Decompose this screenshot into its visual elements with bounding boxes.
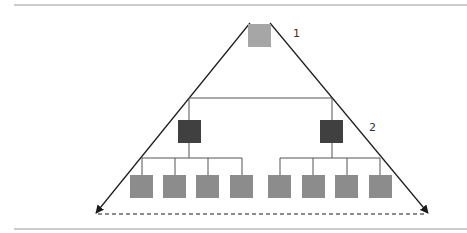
node-leaf-4 — [230, 175, 253, 198]
node-mid-left — [178, 120, 201, 143]
node-leaf-2 — [163, 175, 186, 198]
node-leaf-5 — [268, 175, 291, 198]
node-leaf-1 — [130, 175, 153, 198]
hierarchy-pyramid-diagram — [0, 0, 467, 233]
level-label-2: 2 — [369, 121, 376, 134]
node-leaf-8 — [369, 175, 392, 198]
node-leaf-6 — [302, 175, 325, 198]
node-leaf-3 — [196, 175, 219, 198]
node-leaf-7 — [335, 175, 358, 198]
node-top — [248, 24, 271, 47]
node-mid-right — [320, 120, 343, 143]
level-label-1: 1 — [293, 27, 300, 40]
